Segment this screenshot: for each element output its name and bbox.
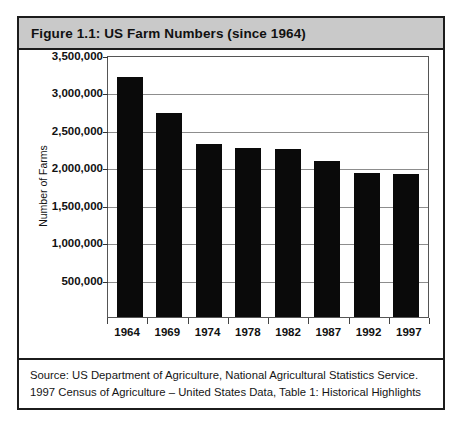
x-axis-tick-label: 1969: [147, 326, 187, 338]
plot-region: [107, 56, 429, 318]
x-axis-tick-mark: [429, 318, 430, 324]
bar-slot: [268, 57, 308, 317]
y-axis-tick-label: 2,000,000: [52, 162, 103, 174]
x-axis-tick-label: 1964: [107, 326, 147, 338]
x-axis-tick-marks: [107, 318, 429, 325]
x-axis-tick-mark: [389, 318, 390, 324]
figure-header: Figure 1.1: US Farm Numbers (since 1964): [19, 18, 443, 50]
x-axis-tick-mark: [308, 318, 309, 324]
y-axis-tick-labels: 500,0001,000,0001,500,0002,000,0002,500,…: [19, 50, 107, 346]
bar-slot: [110, 57, 150, 317]
bar-1992: [354, 173, 380, 317]
bar-series: [108, 57, 428, 317]
bar-1964: [117, 77, 143, 317]
x-axis-tick-label: 1982: [268, 326, 308, 338]
x-axis-tick-label: 1992: [349, 326, 389, 338]
bar-1997: [393, 174, 419, 317]
bar-1982: [275, 149, 301, 317]
bar-slot: [347, 57, 387, 317]
bar-slot: [229, 57, 269, 317]
y-axis-tick-label: 3,000,000: [52, 87, 103, 99]
figure-source-note: Source: US Department of Agriculture, Na…: [19, 358, 443, 408]
x-axis-tick-label: 1997: [389, 326, 429, 338]
x-axis-tick-mark: [107, 318, 108, 324]
x-axis-tick-mark: [147, 318, 148, 324]
y-axis-tick-label: 2,500,000: [52, 125, 103, 137]
bar-1969: [156, 113, 182, 317]
bar-1987: [314, 161, 340, 317]
x-axis-tick-labels: 19641969197419781982198719921997: [107, 326, 429, 338]
figure-title: Figure 1.1: US Farm Numbers (since 1964): [19, 26, 306, 41]
y-axis-tick-label: 500,000: [61, 275, 103, 287]
x-axis-tick-label: 1974: [188, 326, 228, 338]
bar-1974: [196, 144, 222, 317]
bar-slot: [150, 57, 190, 317]
chart-area: Number of Farms 500,0001,000,0001,500,00…: [19, 50, 443, 346]
x-axis-tick-label: 1978: [228, 326, 268, 338]
bar-slot: [189, 57, 229, 317]
x-axis-tick-mark: [188, 318, 189, 324]
bar-slot: [387, 57, 427, 317]
y-axis-tick-label: 1,000,000: [52, 237, 103, 249]
source-line: 1997 Census of Agriculture – United Stat…: [30, 384, 432, 400]
source-line: Source: US Department of Agriculture, Na…: [30, 367, 432, 383]
x-axis-tick-mark: [268, 318, 269, 324]
x-axis-tick-mark: [349, 318, 350, 324]
y-axis-tick-label: 3,500,000: [52, 50, 103, 62]
figure-container: Figure 1.1: US Farm Numbers (since 1964)…: [17, 16, 445, 410]
bar-1978: [235, 148, 261, 317]
bar-slot: [308, 57, 348, 317]
y-axis-tick-label: 1,500,000: [52, 200, 103, 212]
x-axis-tick-mark: [228, 318, 229, 324]
x-axis-tick-label: 1987: [308, 326, 348, 338]
